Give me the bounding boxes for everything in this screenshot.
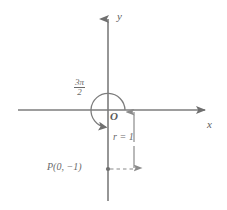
point-p-marker <box>106 167 110 171</box>
point-p-label: P(0, −1) <box>47 162 82 172</box>
math-figure-unit-circle: y x O 3π 2 r = 1 P(0, −1) <box>0 0 227 210</box>
y-axis-label: y <box>117 11 122 22</box>
angle-denominator: 2 <box>74 88 85 97</box>
diagram-canvas <box>0 0 227 210</box>
radius-label: r = 1 <box>113 132 134 142</box>
angle-label: 3π 2 <box>74 78 85 97</box>
origin-label: O <box>110 111 118 122</box>
x-axis-label: x <box>207 119 212 130</box>
